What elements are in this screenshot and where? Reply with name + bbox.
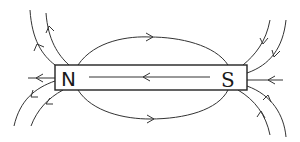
- field-line-left-bottom-inner: [31, 90, 63, 126]
- field-line-right-top-outer: [247, 20, 286, 73]
- field-line-right-bottom-outer: [247, 86, 286, 137]
- south-pole-label: S: [221, 68, 235, 92]
- arrow-icon-left-top-inner: [46, 26, 54, 33]
- field-line-bottom-loop: [78, 90, 228, 119]
- field-line-right-top-inner: [243, 20, 270, 65]
- arrow-icon-left-bottom-outer: [31, 90, 38, 97]
- arrow-icon-left-top-outer: [34, 44, 44, 51]
- field-line-right-bottom-inner: [238, 90, 270, 135]
- north-pole-label: N: [61, 67, 76, 91]
- bar-magnet-field-diagram: N S: [0, 0, 300, 142]
- field-line-top-loop: [78, 37, 228, 65]
- field-line-left-top-inner: [46, 13, 69, 65]
